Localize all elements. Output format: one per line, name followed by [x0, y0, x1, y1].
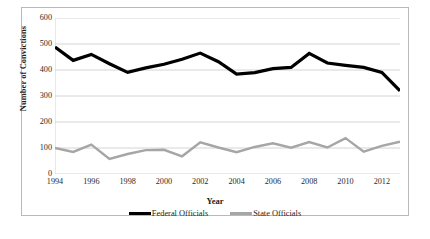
- series-line-federal-officials: [55, 47, 400, 91]
- x-axis-tick-labels: 1994199619982000200220042006200820102012: [55, 177, 400, 191]
- x-tick-label: 2008: [289, 177, 329, 186]
- legend-item[interactable]: Federal Officials: [129, 209, 208, 218]
- y-tick-label: 100: [18, 144, 52, 152]
- x-tick-label: 2000: [144, 177, 184, 186]
- x-tick-label: 2006: [253, 177, 293, 186]
- x-tick-label: 2010: [326, 177, 366, 186]
- plot-area: [55, 18, 400, 174]
- x-tick-label: 2002: [180, 177, 220, 186]
- plot-svg: [55, 18, 400, 174]
- chart-legend: Federal OfficialsState Officials: [0, 209, 430, 218]
- y-tick-label: 500: [18, 40, 52, 48]
- legend-label: Federal Officials: [152, 209, 208, 218]
- legend-label: State Officials: [253, 209, 301, 218]
- chart-figure: Number of Convictions 010020030040050060…: [0, 0, 430, 239]
- x-tick-label: 1994: [35, 177, 75, 186]
- x-tick-label: 1996: [71, 177, 111, 186]
- y-tick-label: 600: [18, 14, 52, 22]
- legend-item[interactable]: State Officials: [230, 209, 301, 218]
- y-tick-label: 300: [18, 92, 52, 100]
- x-tick-label: 2004: [217, 177, 257, 186]
- y-tick-label: 400: [18, 66, 52, 74]
- y-tick-label: 200: [18, 118, 52, 126]
- legend-swatch-icon: [129, 212, 151, 215]
- series-line-state-officials: [55, 138, 400, 159]
- x-tick-label: 2012: [362, 177, 402, 186]
- x-axis-title: Year: [0, 196, 430, 206]
- x-tick-label: 1998: [108, 177, 148, 186]
- legend-swatch-icon: [230, 212, 252, 215]
